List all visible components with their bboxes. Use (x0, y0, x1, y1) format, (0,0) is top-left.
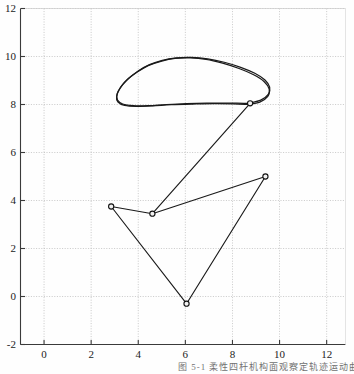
y-tick-label: 10 (0, 51, 16, 62)
x-tick-label: 8 (222, 349, 242, 360)
y-tick-label: 4 (0, 195, 16, 206)
x-tick-label: 0 (34, 349, 54, 360)
x-tick-label: 2 (81, 349, 101, 360)
x-tick-label: 4 (128, 349, 148, 360)
y-tick-label: 6 (0, 147, 16, 158)
y-tick-label: -2 (0, 339, 16, 350)
x-tick-label: 12 (317, 349, 337, 360)
y-tick-label: 12 (0, 3, 16, 14)
figure-caption: 图 5-1 柔性四杆机构面观察定轨迹运动曲线 (178, 360, 354, 373)
x-tick-label: 6 (175, 349, 195, 360)
plot-frame (21, 9, 346, 345)
grid-layer (21, 9, 346, 345)
plot-canvas (0, 0, 354, 374)
data-point-markers (109, 101, 268, 307)
data-curves (111, 57, 270, 303)
y-tick-label: 0 (0, 291, 16, 302)
y-tick-label: 2 (0, 243, 16, 254)
x-tick-label: 10 (270, 349, 290, 360)
y-tick-label: 8 (0, 99, 16, 110)
figure-root: -2024681012 024681012 图 5-1 柔性四杆机构面观察定轨迹… (0, 0, 354, 374)
